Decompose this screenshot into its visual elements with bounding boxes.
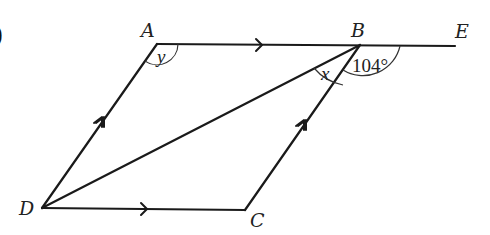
side-DA <box>42 44 157 208</box>
parallelogram-diagram: ) A B E D C y x 104° <box>0 0 490 235</box>
label-C: C <box>250 209 265 231</box>
diagonal-DB <box>42 45 360 208</box>
line-ABE <box>157 44 455 46</box>
angle-label-104: 104° <box>352 55 388 76</box>
angle-label-x: x <box>320 63 330 84</box>
side-CB <box>245 45 360 210</box>
label-D: D <box>18 197 34 219</box>
side-DC <box>42 208 245 210</box>
label-E: E <box>454 20 469 42</box>
question-number-fragment: ) <box>0 19 3 48</box>
label-A: A <box>139 19 155 41</box>
angle-label-y: y <box>155 46 166 67</box>
diagram-canvas: ) A B E D C y x 104° <box>0 0 490 235</box>
label-B: B <box>350 19 365 41</box>
